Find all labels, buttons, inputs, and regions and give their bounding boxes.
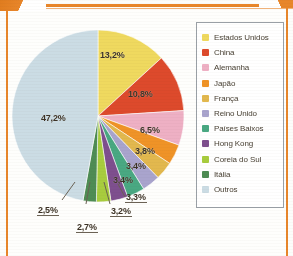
legend-label: China (214, 48, 234, 57)
legend-item-alemanha[interactable]: Alemanha (202, 60, 283, 75)
legend-swatch-icon (202, 64, 209, 71)
slice-label-estados-unidos: 13,2% (100, 50, 125, 60)
legend-swatch-icon (202, 80, 209, 87)
legend-label: Outros (214, 185, 237, 194)
chart-title-cropped (46, 0, 246, 4)
legend-label: Itália (214, 170, 230, 179)
legend-swatch-icon (202, 49, 209, 56)
callout-label-italia: 2,5% (37, 205, 59, 216)
legend-label: Alemanha (214, 63, 249, 72)
legend-label: Reino Unido (214, 109, 257, 118)
legend-swatch-icon (202, 156, 209, 163)
legend-swatch-icon (202, 186, 209, 193)
page-corner-tab-left (0, 0, 46, 11)
page-frame-right-rule (286, 4, 288, 256)
legend-swatch-icon (202, 110, 209, 117)
slice-label-japao: 3,8% (135, 146, 155, 156)
callout-label-hong-kong: 3,2% (110, 206, 132, 217)
callout-label-paises-baixos: 3,3% (125, 192, 147, 203)
legend-swatch-icon (202, 34, 209, 41)
legend-label: Estados Unidos (214, 33, 269, 42)
callout-label-coreia-do-sul: 2,7% (76, 222, 98, 233)
pie-slice-group (12, 30, 184, 202)
slice-label-reino-unido: 3,4% (113, 175, 133, 185)
legend-swatch-icon (202, 125, 209, 132)
legend-item-china[interactable]: China (202, 45, 283, 60)
legend-item-franca[interactable]: França (202, 91, 283, 106)
legend-item-italia[interactable]: Itália (202, 167, 283, 182)
legend-item-reino-unido[interactable]: Reino Unido (202, 106, 283, 121)
chart-legend: Estados Unidos China Alemanha Japão Fran… (196, 22, 284, 208)
legend-item-paises-baixos[interactable]: Países Baixos (202, 121, 283, 136)
legend-label: Países Baixos (214, 124, 263, 133)
legend-label: Coreia do Sul (214, 155, 261, 164)
legend-label: França (214, 94, 238, 103)
slice-label-china: 10,8% (128, 89, 153, 99)
legend-item-coreia-do-sul[interactable]: Coreia do Sul (202, 152, 283, 167)
legend-item-outros[interactable]: Outros (202, 182, 283, 197)
legend-label: Hong Kong (214, 139, 253, 148)
page-frame-left-rule (6, 4, 8, 256)
legend-item-japao[interactable]: Japão (202, 76, 283, 91)
pie-chart: 13,2% 10,8% 6,5% 3,8% 3,4% 3,4% 47,2% (12, 22, 184, 204)
pie-chart-svg (12, 22, 184, 204)
legend-swatch-icon (202, 171, 209, 178)
legend-item-estados-unidos[interactable]: Estados Unidos (202, 30, 283, 45)
chart-page: 13,2% 10,8% 6,5% 3,8% 3,4% 3,4% 47,2% 3,… (0, 0, 293, 256)
legend-item-hong-kong[interactable]: Hong Kong (202, 136, 283, 151)
legend-swatch-icon (202, 95, 209, 102)
legend-swatch-icon (202, 140, 209, 147)
page-corner-tab-right (259, 0, 293, 8)
slice-label-franca: 3,4% (126, 161, 146, 171)
slice-label-outros: 47,2% (41, 113, 66, 123)
slice-label-alemanha: 6,5% (140, 125, 160, 135)
legend-label: Japão (214, 79, 235, 88)
